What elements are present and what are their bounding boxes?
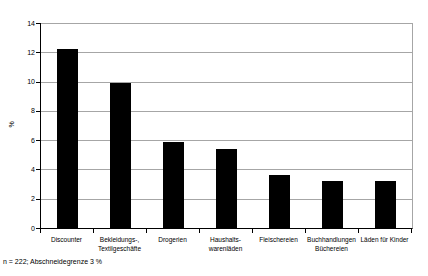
y-tick-mark (36, 199, 40, 200)
x-tick-label-6: Buchhandlungen Büchereien (305, 235, 358, 253)
bar-chart: % 02468101214 DiscounterBekleidungs-, Te… (0, 0, 428, 276)
gridline-8 (41, 111, 412, 112)
y-tick-label-6: 6 (13, 136, 35, 145)
y-tick-label-8: 8 (13, 106, 35, 115)
x-tick-label-5: Fleischereien (252, 235, 305, 244)
plot-area (40, 23, 413, 229)
y-tick-mark (36, 169, 40, 170)
x-tick-label-7: Läden für Kinder (358, 235, 411, 244)
x-tick-mark (199, 229, 200, 233)
x-tick-label-2: Bekleidungs-, Textilgeschäfte (93, 235, 146, 253)
y-tick-label-14: 14 (13, 19, 35, 28)
gridline-6 (41, 140, 412, 141)
y-tick-label-4: 4 (13, 165, 35, 174)
bar-5 (269, 175, 289, 228)
y-tick-label-12: 12 (13, 48, 35, 57)
x-tick-mark (411, 229, 412, 233)
y-tick-mark (36, 82, 40, 83)
x-tick-label-3: Drogerien (146, 235, 199, 244)
y-tick-mark (36, 140, 40, 141)
y-tick-label-10: 10 (13, 77, 35, 86)
x-tick-label-4: Haushalts- warenläden (199, 235, 252, 253)
x-tick-label-1: Discounter (40, 235, 93, 244)
gridline-12 (41, 52, 412, 53)
footnote: n = 222; Abschneidegrenze 3 % (3, 258, 102, 265)
bar-3 (163, 142, 183, 228)
y-tick-mark (36, 23, 40, 24)
y-axis-title: % (8, 121, 15, 127)
x-tick-mark (146, 229, 147, 233)
bar-1 (57, 49, 77, 228)
x-tick-mark (305, 229, 306, 233)
gridline-10 (41, 82, 412, 83)
y-tick-mark (36, 52, 40, 53)
y-tick-label-0: 0 (13, 224, 35, 233)
y-tick-label-2: 2 (13, 194, 35, 203)
x-tick-mark (358, 229, 359, 233)
x-tick-mark (252, 229, 253, 233)
bar-4 (216, 149, 236, 228)
gridline-14 (41, 23, 412, 24)
bar-6 (322, 181, 342, 228)
bar-7 (375, 181, 395, 228)
x-tick-mark (93, 229, 94, 233)
bar-2 (110, 83, 130, 228)
x-tick-mark (40, 229, 41, 233)
y-tick-mark (36, 111, 40, 112)
